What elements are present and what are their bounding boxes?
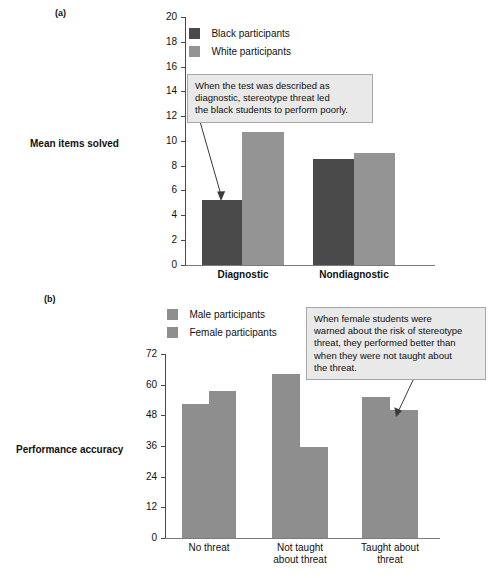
legend-swatch-icon-male: [167, 309, 178, 320]
y-tick-b-72: [161, 354, 165, 355]
legend-label-white: White participants: [211, 46, 290, 57]
callout-b-line-1: warned about the risk of stereotype: [314, 325, 479, 337]
y-tick-label-a-8: 8: [150, 160, 177, 171]
bar-b-nothreat-female: [209, 391, 236, 538]
y-tick-label-a-18: 18: [150, 36, 177, 47]
callout-a: When the test was described as diagnosti…: [187, 74, 373, 123]
callout-b-line-4: the threat.: [314, 362, 479, 374]
y-tick-label-a-0: 0: [150, 259, 177, 270]
x-category-label-a-0: Diagnostic: [183, 269, 303, 281]
legend-item-black-participants: Black participants: [189, 24, 291, 39]
legend-b: Male participants Female participants: [167, 305, 277, 341]
panel-letter-a: (a): [55, 8, 66, 18]
bar-b-taught-female: [390, 410, 418, 538]
x-category-label-a-1: Nondiagnostic: [294, 269, 414, 281]
bar-a-nondiagnostic-black: [313, 159, 354, 265]
y-tick-label-b-12: 12: [130, 501, 157, 512]
x-category-label-b-0: No threat: [159, 542, 259, 554]
y-tick-a-18: [181, 42, 185, 43]
callout-b-line-2: threat, they performed better than: [314, 337, 479, 349]
y-tick-a-14: [181, 91, 185, 92]
callout-b-line-3: when they were not taught about: [314, 350, 479, 362]
callout-a-line-0: When the test was described as: [195, 80, 366, 92]
y-axis-title-b: Performance accuracy: [16, 444, 123, 455]
bar-a-nondiagnostic-white: [354, 153, 395, 265]
y-tick-a-2: [181, 240, 185, 241]
legend-label-female: Female participants: [189, 327, 276, 338]
bar-b-nottaught-female: [300, 447, 328, 538]
bar-b-nottaught-male: [272, 374, 300, 538]
bar-b-nothreat-male: [182, 404, 209, 538]
y-axis-line-b: [165, 354, 166, 538]
chart-panel-a: (a) Mean items solved 0 2 4 6 8 10 12 14…: [0, 0, 491, 290]
legend-item-male-participants: Male participants: [167, 305, 277, 320]
y-tick-b-0: [161, 538, 165, 539]
legend-item-white-participants: White participants: [189, 42, 291, 57]
panel-letter-b: (b): [44, 294, 56, 304]
y-tick-label-b-48: 48: [130, 409, 157, 420]
y-tick-label-b-72: 72: [130, 348, 157, 359]
y-tick-label-a-2: 2: [150, 234, 177, 245]
callout-leader-line-b: [380, 376, 430, 422]
y-tick-label-a-10: 10: [150, 135, 177, 146]
legend-item-female-participants: Female participants: [167, 323, 277, 338]
y-tick-b-36: [161, 446, 165, 447]
y-tick-label-a-4: 4: [150, 209, 177, 220]
callout-b-line-0: When female students were: [314, 313, 479, 325]
y-tick-label-a-12: 12: [150, 110, 177, 121]
legend-label-male: Male participants: [189, 309, 265, 320]
legend-a: Black participants White participants: [189, 24, 291, 60]
y-tick-label-b-36: 36: [130, 440, 157, 451]
y-tick-a-20: [181, 17, 185, 18]
legend-label-black: Black participants: [211, 28, 289, 39]
callout-leader-line-a: [185, 115, 275, 205]
y-tick-b-48: [161, 415, 165, 416]
y-tick-b-60: [161, 385, 165, 386]
callout-a-line-2: the black students to perform poorly.: [195, 104, 366, 116]
x-category-label-b-1-line0: Not taught: [250, 542, 350, 554]
y-axis-title-a: Mean items solved: [30, 138, 119, 149]
y-tick-label-a-6: 6: [150, 184, 177, 195]
y-tick-label-a-20: 20: [150, 11, 177, 22]
y-tick-label-b-0: 0: [130, 532, 157, 543]
y-tick-b-12: [161, 507, 165, 508]
x-axis-line-a: [185, 265, 435, 266]
y-tick-a-16: [181, 67, 185, 68]
chart-panel-b: (b) Performance accuracy 0 12 24 36 48 6…: [0, 288, 491, 578]
bar-a-diagnostic-black: [202, 200, 242, 265]
legend-swatch-icon-white: [189, 46, 200, 57]
y-tick-b-24: [161, 477, 165, 478]
legend-swatch-icon-female: [167, 327, 178, 338]
y-tick-label-b-24: 24: [130, 471, 157, 482]
y-tick-label-a-14: 14: [150, 85, 177, 96]
y-tick-a-4: [181, 215, 185, 216]
callout-b: When female students were warned about t…: [306, 307, 486, 380]
callout-a-line-1: diagnostic, stereotype threat led: [195, 92, 366, 104]
x-category-label-b-1-line1: about threat: [250, 554, 350, 566]
y-tick-a-0: [181, 265, 185, 266]
y-tick-label-a-16: 16: [150, 61, 177, 72]
legend-swatch-icon-black: [189, 28, 200, 39]
x-category-label-b-2-line0: Taught about: [340, 542, 440, 554]
x-category-label-b-2-line1: threat: [340, 554, 440, 566]
x-axis-line-b: [165, 538, 440, 539]
y-tick-label-b-60: 60: [130, 379, 157, 390]
